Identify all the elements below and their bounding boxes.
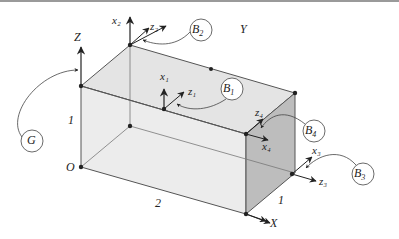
frame2-z-label: z₂ [150, 20, 158, 32]
dimension-length: 2 [155, 196, 161, 211]
frame3-z-label: z₃ [319, 175, 327, 187]
ground-label: G [27, 133, 36, 148]
axis-label-z: Z [74, 30, 81, 45]
frame2-x-label: xB2₂ [112, 14, 121, 26]
dimension-width: 1 [278, 193, 284, 208]
axis-label-y: Y [240, 22, 247, 37]
body-label-b2: B2 [192, 22, 203, 38]
diagram-root: Z Y X O 2 1 1 xB2₂ z₂ x₁ z₁ z₄ x₄ x₃ z₃ … [0, 0, 399, 239]
frame4-x-label: x₄ [262, 140, 271, 152]
axis-label-x: X [270, 216, 277, 231]
frame1-z-label: z₁ [188, 85, 196, 97]
frame4-z-label: z₄ [255, 106, 263, 118]
body-label-b4: B4 [305, 123, 316, 139]
frame3-x-label: x₃ [312, 144, 321, 156]
frame1-x-label: x₁ [160, 70, 169, 82]
dimension-height: 1 [68, 113, 74, 128]
body-label-b1: B1 [223, 81, 234, 97]
body-label-b3: B3 [354, 166, 365, 182]
origin-label: O [66, 160, 75, 175]
